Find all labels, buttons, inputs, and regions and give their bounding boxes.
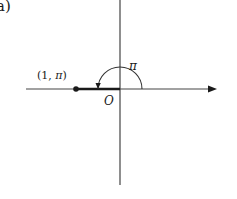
angle-label: π bbox=[129, 60, 137, 72]
point-label: (1, π) bbox=[37, 70, 67, 81]
point-label-prefix: (1, bbox=[37, 69, 55, 82]
diagram-graphics bbox=[0, 0, 237, 199]
point-label-suffix: ) bbox=[63, 69, 67, 82]
polar-diagram: a) (1, π) π O bbox=[0, 0, 237, 199]
origin-label: O bbox=[104, 95, 114, 107]
point-label-pi: π bbox=[55, 69, 62, 82]
axis-arrowhead-icon bbox=[208, 86, 217, 93]
point-marker bbox=[73, 86, 79, 92]
part-label: a) bbox=[0, 0, 11, 14]
